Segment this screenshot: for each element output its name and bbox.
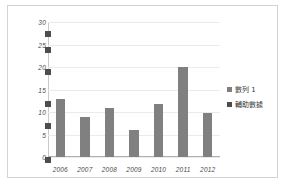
gridline xyxy=(48,22,220,23)
legend-item-label: 數列 1 xyxy=(235,84,256,94)
legend-swatch-icon xyxy=(227,87,232,92)
x-axis-tick-label: 2010 xyxy=(151,166,166,173)
y-axis-tick-label: 0 xyxy=(12,154,46,161)
gridline xyxy=(48,90,220,91)
y-axis-tick-label: 10 xyxy=(12,109,46,116)
bar xyxy=(105,108,114,157)
scatter-marker xyxy=(45,31,51,37)
bar xyxy=(178,67,187,157)
x-axis-tick-label: 2006 xyxy=(53,166,68,173)
x-axis-tick-label: 2009 xyxy=(126,166,141,173)
bar xyxy=(56,99,65,158)
x-axis-tick-label: 2011 xyxy=(176,166,191,173)
scatter-marker xyxy=(45,69,51,75)
y-axis-tick-label: 25 xyxy=(12,41,46,48)
bar xyxy=(80,117,89,158)
chart-screenshot: 051015202530 200620072008200920102011201… xyxy=(0,0,287,186)
legend-item-label: 輔助數據 xyxy=(235,99,263,109)
y-axis-labels: 051015202530 xyxy=(8,22,46,157)
bar xyxy=(203,113,212,157)
scatter-marker xyxy=(45,47,51,53)
y-axis-tick-label: 20 xyxy=(12,64,46,71)
gridline xyxy=(48,112,220,113)
gridline xyxy=(48,45,220,46)
chart-legend: 數列 1輔助數據 xyxy=(227,84,279,114)
legend-swatch-icon xyxy=(227,102,232,107)
scatter-marker xyxy=(45,123,51,129)
y-axis-tick-label: 30 xyxy=(12,19,46,26)
y-axis-tick-label: 15 xyxy=(12,86,46,93)
plot-area xyxy=(48,22,220,157)
scatter-marker xyxy=(45,101,51,107)
x-axis-tick-label: 2012 xyxy=(200,166,215,173)
legend-item: 輔助數據 xyxy=(227,99,279,109)
gridline xyxy=(48,67,220,68)
bar xyxy=(154,104,163,157)
gridline xyxy=(48,157,220,158)
x-axis-labels: 2006200720082009201020112012 xyxy=(48,159,220,173)
x-axis-tick-label: 2008 xyxy=(102,166,117,173)
bar xyxy=(129,130,138,157)
y-axis-tick-label: 5 xyxy=(12,131,46,138)
x-axis-tick-label: 2007 xyxy=(77,166,92,173)
chart-frame: 051015202530 200620072008200920102011201… xyxy=(7,5,278,178)
legend-item: 數列 1 xyxy=(227,84,279,94)
